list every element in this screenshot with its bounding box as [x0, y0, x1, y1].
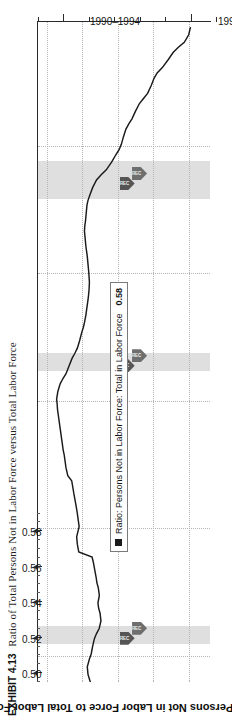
category-tick-label: 1990–1994: [90, 16, 140, 27]
recession-badge-label: REC: [132, 626, 141, 631]
exhibit-page: EXHIBIT 4.13 Ratio of Total Persons Not …: [0, 0, 232, 716]
value-tick-minor: [37, 539, 40, 540]
exhibit-caption-column: EXHIBIT 4.13 Ratio of Total Persons Not …: [0, 0, 24, 716]
value-tick-minor: [37, 592, 40, 593]
category-tick-minor: [165, 17, 166, 22]
recession-badge-label: REC: [120, 636, 129, 641]
value-tick-minor: [37, 557, 40, 558]
line-chart: Ratio: Persons Not in Labor Force to Tot…: [24, 0, 232, 716]
value-tick-label: 0.54: [22, 598, 41, 609]
chart-legend: Ratio: Persons Not in Labor Force: Total…: [110, 282, 128, 552]
legend-marker-icon: [115, 539, 122, 546]
value-tick-label: 0.52: [22, 634, 41, 645]
value-tick-minor: [37, 663, 40, 664]
chart-title: Ratio: Persons Not in Labor Force to Tot…: [38, 700, 210, 716]
value-tick-label: 0.58: [22, 527, 41, 538]
value-tick-minor: [37, 575, 40, 576]
value-tick-minor: [37, 654, 40, 655]
exhibit-caption: EXHIBIT 4.13 Ratio of Total Persons Not …: [0, 0, 24, 716]
exhibit-caption-text: Ratio of Total Persons Not in Labor Forc…: [6, 342, 18, 646]
value-tick-minor: [37, 646, 40, 647]
value-tick-minor: [37, 583, 40, 584]
value-tick-label: 0.56: [22, 563, 41, 574]
value-tick-minor: [37, 521, 40, 522]
category-tick-minor: [63, 17, 64, 22]
chart-rotation-wrapper: Ratio: Persons Not in Labor Force to Tot…: [24, 0, 232, 716]
chart-slot: Ratio: Persons Not in Labor Force to Tot…: [24, 0, 232, 716]
plot-area: RECRECRECRECRECREC Ratio: Persons Not in…: [38, 22, 210, 682]
value-tick-label: 0.50: [22, 669, 41, 680]
value-tick-minor: [37, 610, 40, 611]
category-tick-label: 1995–1999: [218, 16, 232, 27]
value-tick-minor: [37, 513, 40, 514]
value-tick-minor: [37, 619, 40, 620]
category-tick-minor: [38, 17, 39, 22]
category-tick-minor: [191, 17, 192, 22]
recession-badge-label: REC: [132, 171, 141, 176]
legend-value: 0.58: [114, 288, 124, 306]
value-tick-minor: [37, 681, 40, 682]
recession-badge-label: REC: [120, 181, 129, 186]
legend-series-label: Ratio: Persons Not in Labor Force: Total…: [114, 314, 124, 534]
value-tick-minor: [37, 548, 40, 549]
value-tick-minor: [37, 628, 40, 629]
recession-badge-label: REC: [132, 353, 141, 358]
category-tick-minor: [140, 17, 141, 22]
